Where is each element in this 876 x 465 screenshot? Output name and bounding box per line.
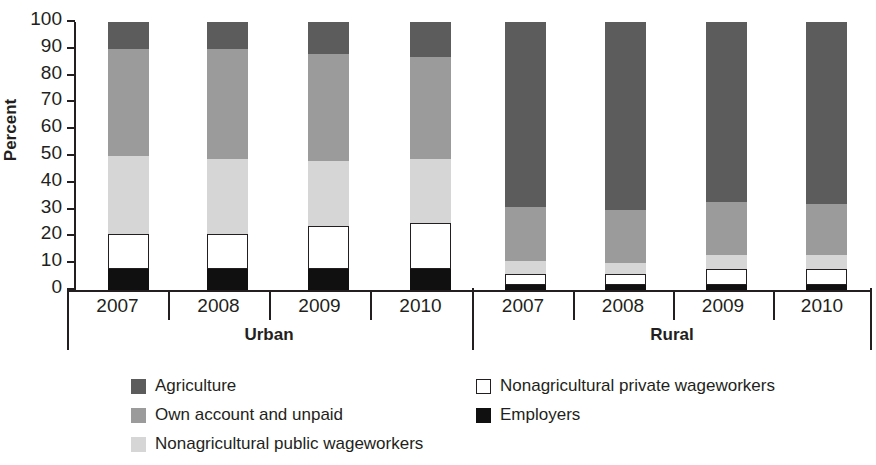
bar-segment-own-account-and-unpaid: [207, 49, 248, 159]
bar-segment-nonagricultural-private-wageworkers: [308, 226, 349, 269]
legend-item: Own account and unpaid: [131, 405, 343, 425]
bar-segment-nonagricultural-public-wageworkers: [308, 161, 349, 225]
category-separator: [168, 290, 170, 320]
bar-segment-nonagricultural-private-wageworkers: [505, 274, 546, 285]
category-separator: [673, 290, 675, 320]
bar-segment-nonagricultural-public-wageworkers: [108, 156, 149, 234]
bar-segment-nonagricultural-private-wageworkers: [605, 274, 646, 285]
legend-item: Agriculture: [131, 376, 236, 396]
category-separator: [269, 290, 271, 320]
bar-segment-agriculture: [308, 22, 349, 54]
bar-segment-nonagricultural-private-wageworkers: [806, 269, 847, 285]
legend-label: Employers: [500, 405, 580, 425]
legend-swatch-icon: [131, 379, 146, 394]
bar-segment-agriculture: [806, 22, 847, 204]
bar-segment-agriculture: [505, 22, 546, 207]
legend-item: Nonagricultural private wageworkers: [476, 376, 775, 396]
y-axis-tick-label: 80: [24, 63, 62, 83]
y-axis-tick: 80: [67, 74, 75, 76]
x-axis-group-label: Urban: [67, 320, 471, 350]
bar-segment-employers: [308, 269, 349, 290]
legend-item: Employers: [476, 405, 580, 425]
category-axis: 2007200820092010Urban2007200820092010Rur…: [67, 290, 871, 355]
legend-swatch-icon: [131, 437, 146, 452]
x-axis-year-label: 2010: [370, 292, 471, 320]
x-axis-group-label: Rural: [473, 320, 871, 350]
bar-segment-own-account-and-unpaid: [108, 49, 149, 156]
bar-segment-own-account-and-unpaid: [806, 204, 847, 255]
x-axis-year-label: 2007: [67, 292, 168, 320]
category-axis-boundary: [870, 288, 872, 350]
y-axis-tick-label: 40: [24, 170, 62, 190]
y-axis-tick-label: 70: [24, 89, 62, 109]
bar-segment-own-account-and-unpaid: [605, 210, 646, 264]
y-axis-title: Percent: [1, 85, 21, 175]
stacked-bar-chart: Percent 0102030405060708090100 200720082…: [0, 0, 876, 465]
y-axis-tick-label: 100: [24, 9, 62, 29]
y-axis-tick-label: 60: [24, 116, 62, 136]
y-axis-line: [74, 22, 76, 291]
legend-item: Nonagricultural public wageworkers: [131, 434, 423, 454]
y-axis-tick: 60: [67, 127, 75, 129]
bar-segment-employers: [207, 269, 248, 290]
x-axis-year-label: 2007: [473, 292, 573, 320]
bar-segment-employers: [108, 269, 149, 290]
bar-segment-nonagricultural-public-wageworkers: [505, 261, 546, 274]
bar-segment-nonagricultural-private-wageworkers: [410, 223, 451, 269]
category-separator: [573, 290, 575, 320]
legend-label: Nonagricultural public wageworkers: [155, 434, 423, 454]
category-separator: [773, 290, 775, 320]
bar-segment-agriculture: [605, 22, 646, 210]
category-axis-boundary: [472, 288, 474, 350]
y-axis-tick-label: 0: [24, 277, 62, 297]
legend-swatch-icon: [131, 408, 146, 423]
bar-segment-agriculture: [108, 22, 149, 49]
bar-segment-nonagricultural-public-wageworkers: [605, 263, 646, 274]
category-separator: [370, 290, 372, 320]
bar-segment-nonagricultural-public-wageworkers: [410, 159, 451, 223]
y-axis-tick: 50: [67, 154, 75, 156]
legend-swatch-icon: [476, 408, 491, 423]
category-axis-boundary: [67, 288, 69, 350]
plot-area: 0102030405060708090100: [74, 22, 864, 290]
bar-segment-employers: [410, 269, 451, 290]
bar-segment-nonagricultural-public-wageworkers: [207, 159, 248, 234]
y-axis-tick: 30: [67, 208, 75, 210]
y-axis-tick: 100: [67, 20, 75, 22]
bar-segment-nonagricultural-private-wageworkers: [108, 234, 149, 269]
bar-segment-own-account-and-unpaid: [410, 57, 451, 159]
bar-segment-own-account-and-unpaid: [706, 202, 747, 256]
y-axis-tick: 90: [67, 47, 75, 49]
y-axis-tick: 10: [67, 261, 75, 263]
y-axis-tick: 20: [67, 234, 75, 236]
legend-swatch-icon: [476, 379, 491, 394]
bar-segment-nonagricultural-private-wageworkers: [706, 269, 747, 285]
bar-segment-nonagricultural-public-wageworkers: [706, 255, 747, 268]
bar-segment-nonagricultural-public-wageworkers: [806, 255, 847, 268]
x-axis-year-label: 2009: [673, 292, 773, 320]
x-axis-year-label: 2009: [269, 292, 370, 320]
legend-label: Nonagricultural private wageworkers: [500, 376, 775, 396]
bar-segment-agriculture: [207, 22, 248, 49]
y-axis-tick-label: 30: [24, 197, 62, 217]
y-axis-tick: 40: [67, 181, 75, 183]
y-axis-tick-label: 20: [24, 223, 62, 243]
bar-segment-agriculture: [706, 22, 747, 202]
chart-legend: AgricultureNonagricultural private wagew…: [0, 376, 876, 464]
legend-label: Own account and unpaid: [155, 405, 343, 425]
y-axis-tick-label: 10: [24, 250, 62, 270]
x-axis-year-label: 2010: [773, 292, 871, 320]
y-axis-tick-label: 50: [24, 143, 62, 163]
bar-segment-agriculture: [410, 22, 451, 57]
y-axis-tick: 70: [67, 100, 75, 102]
legend-label: Agriculture: [155, 376, 236, 396]
x-axis-year-label: 2008: [573, 292, 673, 320]
x-axis-year-label: 2008: [168, 292, 269, 320]
bar-segment-nonagricultural-private-wageworkers: [207, 234, 248, 269]
y-axis-tick-label: 90: [24, 36, 62, 56]
bar-segment-own-account-and-unpaid: [505, 207, 546, 261]
bar-segment-own-account-and-unpaid: [308, 54, 349, 161]
